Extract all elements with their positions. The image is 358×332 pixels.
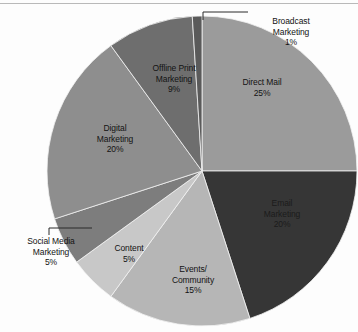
slice-label-direct-mail: Direct Mail 25%: [218, 77, 306, 98]
slice-label-social-media-value: 5%: [4, 257, 98, 268]
slice-label-events-community: Events/ Community 15%: [150, 264, 236, 296]
slice-label-broadcast-value: 1%: [250, 37, 332, 48]
slice-label-broadcast-marketing: Broadcast Marketing 1%: [250, 16, 332, 48]
slice-label-offline-print-name2: Marketing: [131, 74, 217, 85]
slice-label-events-community-name2: Community: [150, 275, 236, 286]
slice-label-content-name: Content: [98, 243, 160, 254]
slice-label-social-media-name1: Social Media: [4, 236, 98, 247]
slice-label-events-community-value: 15%: [150, 285, 236, 296]
slice-label-email-marketing-name2: Marketing: [243, 209, 321, 220]
slice-label-email-marketing: Email Marketing 20%: [243, 198, 321, 230]
slice-label-digital-marketing-value: 20%: [73, 144, 157, 155]
slice-label-content-value: 5%: [98, 254, 160, 265]
slice-label-social-media-marketing: Social Media Marketing 5%: [4, 236, 98, 268]
slice-label-digital-marketing: Digital Marketing 20%: [73, 123, 157, 155]
slice-label-direct-mail-name: Direct Mail: [218, 77, 306, 88]
slice-label-email-marketing-name1: Email: [243, 198, 321, 209]
slice-label-broadcast-name1: Broadcast: [250, 16, 332, 27]
slice-label-content: Content 5%: [98, 243, 160, 264]
slice-label-email-marketing-value: 20%: [243, 219, 321, 230]
slice-label-offline-print-name1: Offline Print: [131, 63, 217, 74]
slice-label-broadcast-name2: Marketing: [250, 27, 332, 38]
slice-label-offline-print-marketing: Offline Print Marketing 9%: [131, 63, 217, 95]
slice-label-events-community-name1: Events/: [150, 264, 236, 275]
slice-label-offline-print-value: 9%: [131, 84, 217, 95]
slice-label-social-media-name2: Marketing: [4, 247, 98, 258]
slice-label-digital-marketing-name1: Digital: [73, 123, 157, 134]
slice-label-direct-mail-value: 25%: [218, 88, 306, 99]
slice-label-digital-marketing-name2: Marketing: [73, 134, 157, 145]
pie-chart-figure: Direct Mail 25% Email Marketing 20% Even…: [0, 0, 358, 332]
